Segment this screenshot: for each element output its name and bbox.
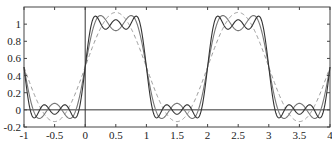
y-tick-label: 0.2 [7,87,21,99]
x-tick-label: 2.5 [231,129,245,141]
x-tick-label: 1 [144,129,150,141]
y-tick-label: 0 [16,104,22,116]
plot-frame [24,7,330,127]
series-line-3 [24,16,330,118]
y-tick-label: 0.6 [7,52,21,64]
series-line-1 [24,12,330,121]
fourier-chart: -1-0.500.511.522.533.54-0.200.20.40.60.8… [0,0,332,143]
y-tick-label: 0.8 [7,35,21,47]
x-tick-label: 0 [82,129,88,141]
series-line-2 [24,16,330,119]
x-tick-label: 0.5 [109,129,123,141]
x-tick-label: 3 [266,129,272,141]
x-tick-label: 3.5 [293,129,307,141]
x-tick-label: 2 [205,129,211,141]
x-tick-label: -0.5 [46,129,64,141]
y-tick-label: 1 [16,18,22,30]
x-tick-label: 1.5 [170,129,184,141]
y-tick-label: 0.4 [7,70,21,82]
x-tick-label: 4 [327,129,332,141]
y-tick-label: -0.2 [4,121,21,133]
